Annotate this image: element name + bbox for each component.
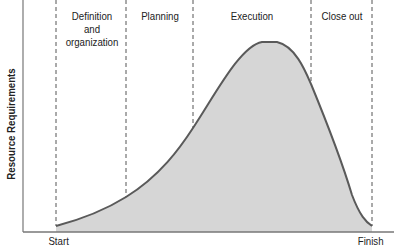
phase-label-line: and: [66, 23, 119, 36]
phase-label-line: Definition: [66, 10, 119, 23]
phase-label-execution: Execution: [226, 10, 279, 23]
resource-curve-chart: [0, 0, 394, 248]
phase-label-definition: Definition and organization: [66, 10, 119, 49]
x-axis-start-label: Start: [48, 235, 68, 247]
phase-label-planning: Planning: [134, 10, 187, 23]
phase-label-close-out: Close out: [317, 10, 366, 23]
resource-area: [56, 42, 372, 232]
x-axis-finish-label: Finish: [358, 235, 384, 247]
y-axis-label: Resource Requirements: [5, 67, 17, 181]
phase-label-line: organization: [66, 36, 119, 49]
